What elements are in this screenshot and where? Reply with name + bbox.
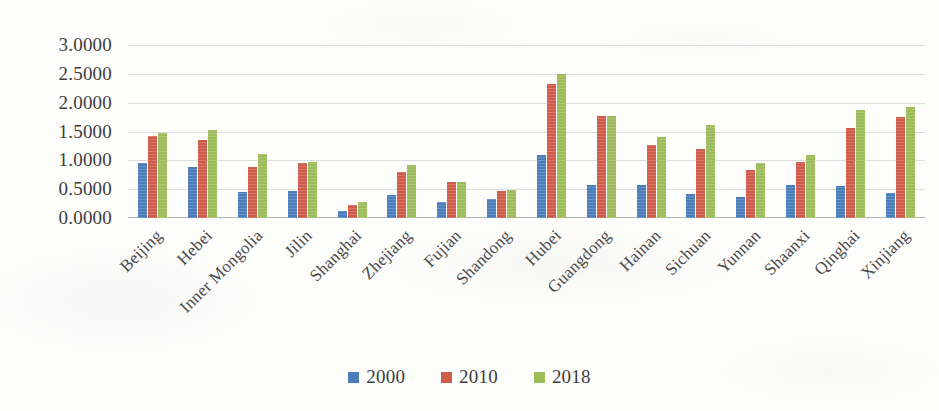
bar-2000 [338,211,347,218]
bar-group [277,45,327,218]
y-axis-tick-labels: 3.00002.50002.00001.50001.00000.50000.00… [0,45,118,218]
bar-group [228,45,278,218]
x-axis-category: Guangdong [576,222,626,312]
bar-2010 [896,117,905,218]
bar-group [875,45,925,218]
legend-swatch-icon [348,372,359,383]
bar-2010 [248,167,257,218]
bar-2000 [138,163,147,218]
x-axis-category-label: Hubei [521,226,565,270]
bar-2018 [507,190,516,218]
x-axis-category: Zhejiang [377,222,427,312]
bar-2010 [746,170,755,218]
bar-2018 [258,154,267,218]
legend-item-2010[interactable]: 2010 [441,366,498,388]
bar-2010 [597,116,606,218]
bar-group [726,45,776,218]
legend-item-2018[interactable]: 2018 [534,366,591,388]
bar-chart: 3.00002.50002.00001.50001.00000.50000.00… [0,0,939,411]
bar-group [825,45,875,218]
bar-2010 [447,182,456,218]
bar-2000 [686,194,695,218]
bar-2018 [657,137,666,218]
bar-2010 [647,145,656,218]
legend-label: 2018 [552,366,591,388]
legend-label: 2010 [459,366,498,388]
bar-2000 [288,191,297,218]
bar-2000 [736,197,745,218]
legend-item-2000[interactable]: 2000 [348,366,405,388]
x-axis-category-label: Jilin [281,226,317,262]
bar-2018 [906,107,915,218]
x-axis-category-label: Beijing [117,226,168,277]
bar-2018 [806,155,815,218]
bar-group [676,45,726,218]
bar-2000 [487,199,496,218]
bar-2010 [547,84,556,218]
x-axis-category: Beijing [128,222,178,312]
x-axis-category-labels: BeijingHebeiInner MongoliaJilinShanghaiZ… [128,222,925,312]
bar-group [527,45,577,218]
bar-2018 [557,74,566,218]
bar-2010 [796,162,805,218]
bar-groups [128,45,925,218]
x-axis-category-label: Fujian [420,226,466,272]
y-axis-tick-label: 3.0000 [0,34,112,56]
bar-2000 [637,185,646,218]
chart-legend: 200020102018 [0,366,939,388]
bar-2000 [387,195,396,218]
bar-2018 [706,125,715,218]
bar-2000 [587,185,596,218]
bar-2000 [886,193,895,218]
bar-2000 [537,155,546,218]
bar-2010 [846,128,855,218]
bar-group [377,45,427,218]
bar-2000 [188,167,197,218]
y-axis-tick-label: 1.0000 [0,149,112,171]
bar-2000 [836,186,845,218]
bar-2018 [308,162,317,219]
bar-2000 [437,202,446,218]
bar-2000 [238,192,247,218]
bar-group [776,45,826,218]
bar-2018 [607,116,616,218]
bar-group [626,45,676,218]
x-axis-category: Inner Mongolia [228,222,278,312]
bar-group [477,45,527,218]
bar-2010 [148,136,157,218]
legend-label: 2000 [366,366,405,388]
y-axis-tick-label: 0.5000 [0,178,112,200]
bar-2010 [696,149,705,218]
bar-2018 [856,110,865,218]
bar-2018 [158,133,167,218]
bar-group [178,45,228,218]
x-axis-category: Shandong [477,222,527,312]
bar-2000 [786,185,795,218]
bar-2010 [397,172,406,218]
bar-group [327,45,377,218]
legend-swatch-icon [441,372,452,383]
y-axis-tick-label: 1.5000 [0,121,112,143]
bar-group [576,45,626,218]
x-axis-category-label: Hebei [173,226,217,270]
y-axis-tick-label: 2.0000 [0,92,112,114]
bar-2018 [208,130,217,218]
bar-group [427,45,477,218]
y-axis-tick-label: 0.0000 [0,207,112,229]
bar-2010 [348,205,357,218]
bar-2018 [358,202,367,218]
bar-2018 [407,165,416,218]
legend-swatch-icon [534,372,545,383]
bar-2018 [457,182,466,218]
bar-2010 [198,140,207,218]
x-axis-category: Xinjiang [875,222,925,312]
bar-group [128,45,178,218]
bar-2010 [497,191,506,218]
bar-2010 [298,163,307,218]
bar-2018 [756,163,765,218]
y-axis-tick-label: 2.5000 [0,63,112,85]
